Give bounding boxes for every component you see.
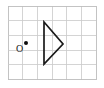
figure-root: O	[0, 0, 104, 88]
triangle-shape	[44, 22, 63, 64]
triangle-group	[44, 22, 63, 64]
point-o-label: O	[16, 43, 23, 54]
point-o-group: O	[16, 41, 28, 54]
geometry-diagram-svg: O	[0, 0, 104, 88]
point-o-dot	[24, 41, 28, 45]
